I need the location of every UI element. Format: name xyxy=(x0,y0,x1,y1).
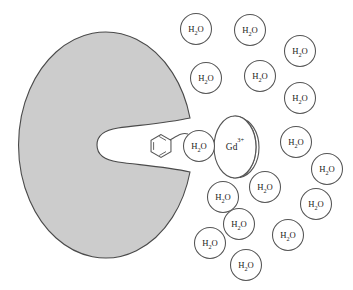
water-molecule: H2O xyxy=(281,127,312,158)
water-molecule: H2O xyxy=(195,228,226,259)
water-molecule: H2O xyxy=(208,182,239,213)
water-molecule: H2O xyxy=(285,36,316,67)
figure-canvas: Gd3+ H2O H2OH2OH2OH2OH2OH2OH2OH2OH2OH2OH… xyxy=(0,0,353,290)
water-molecule: H2O xyxy=(235,15,266,46)
water-molecule: H2O xyxy=(231,250,262,281)
inner-sphere-water: H2O xyxy=(184,131,215,162)
water-molecule: H2O xyxy=(301,189,332,220)
water-molecule: H2O xyxy=(245,61,276,92)
water-molecule: H2O xyxy=(285,83,316,114)
gadolinium-ion-barrel: Gd3+ xyxy=(214,116,259,178)
aromatic-ring xyxy=(151,135,171,158)
water-molecule: H2O xyxy=(224,209,255,240)
water-molecule: H2O xyxy=(191,63,222,94)
water-molecule: H2O xyxy=(273,220,304,251)
water-molecule: H2O xyxy=(250,172,281,203)
diagram-svg: Gd3+ H2O H2OH2OH2OH2OH2OH2OH2OH2OH2OH2OH… xyxy=(0,0,353,290)
water-molecule: H2O xyxy=(312,154,343,185)
water-molecule: H2O xyxy=(181,14,212,45)
